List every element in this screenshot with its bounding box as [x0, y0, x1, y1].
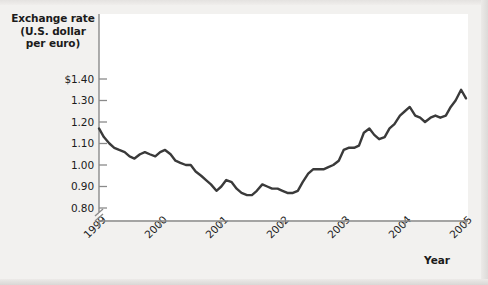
- exchange-rate-line: [99, 90, 466, 195]
- y-axis-ticks: [99, 79, 107, 208]
- chart-figure: Exchange rate (U.S. dollar per euro) $1.…: [0, 0, 488, 285]
- x-axis-ticks: [99, 221, 466, 227]
- chart-svg: [0, 0, 488, 285]
